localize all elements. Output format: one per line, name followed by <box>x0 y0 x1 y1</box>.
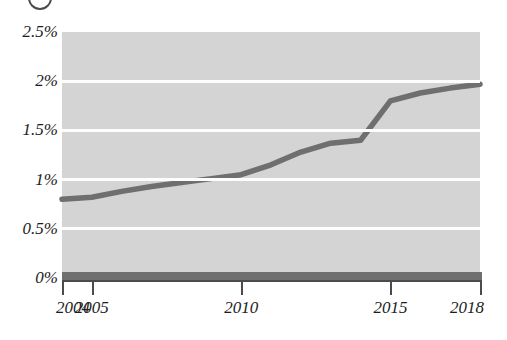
x-axis-tick <box>390 281 392 295</box>
x-axis-tick <box>241 281 243 295</box>
heading-text: — — — — — — — — <box>56 0 506 10</box>
x-axis-tick-label: 2005 <box>75 299 109 316</box>
y-axis-tick-labels: 2.5%2%1.5%1%0.5%0% <box>0 0 58 340</box>
y-axis-tick-label: 1% <box>2 171 58 188</box>
plot-area <box>62 32 480 278</box>
gridline <box>62 178 480 181</box>
y-axis-tick-label: 2% <box>2 72 58 89</box>
cropped-heading-strip: — — — — — — — — <box>0 0 507 20</box>
x-axis-tick-label: 2018 <box>450 299 484 316</box>
y-axis-tick-label: 0.5% <box>2 220 58 237</box>
x-axis-line <box>62 280 482 282</box>
x-axis-tick <box>62 281 64 295</box>
data-line-series <box>62 32 480 278</box>
chart-figure: — — — — — — — — 2.5%2%1.5%1%0.5%0% 20042… <box>0 0 507 340</box>
y-axis-tick-label: 2.5% <box>2 23 58 40</box>
series-polyline <box>62 84 480 199</box>
y-axis-tick-label: 1.5% <box>2 121 58 138</box>
y-axis-tick-label: 0% <box>2 269 58 286</box>
x-axis-tick-label: 2015 <box>373 299 407 316</box>
x-axis-tick <box>480 281 482 295</box>
gridline <box>62 80 480 83</box>
gridline <box>62 129 480 132</box>
gridline <box>62 227 480 230</box>
zero-baseline-band <box>62 272 482 280</box>
x-axis-tick <box>92 281 94 295</box>
x-axis-tick-label: 2010 <box>224 299 258 316</box>
